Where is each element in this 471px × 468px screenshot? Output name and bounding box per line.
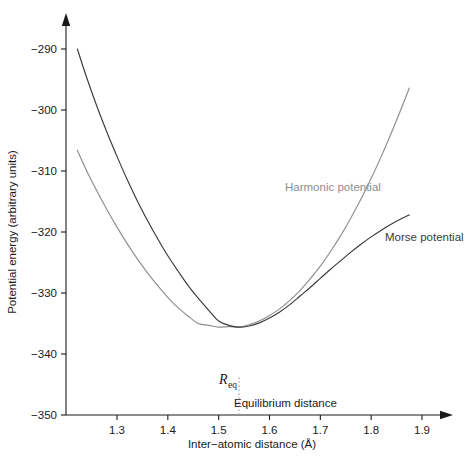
y-tick-label: −320 bbox=[31, 226, 57, 238]
series-label-morse-potential: Morse potential bbox=[385, 231, 464, 243]
potential-energy-chart: 1.31.41.51.61.71.81.9 −290−300−310−320−3… bbox=[0, 0, 471, 468]
series-label-harmonic-potential: Harmonic potential bbox=[285, 181, 381, 193]
x-axis-title: Inter−atomic distance (Å) bbox=[188, 438, 316, 450]
y-tick-label: −290 bbox=[31, 43, 57, 55]
x-tick-label: 1.8 bbox=[363, 424, 379, 436]
y-axis-ticks: −290−300−310−320−330−340−350 bbox=[31, 43, 66, 421]
x-tick-label: 1.5 bbox=[211, 424, 227, 436]
chart-canvas: 1.31.41.51.61.71.81.9 −290−300−310−320−3… bbox=[0, 0, 471, 468]
y-tick-label: −330 bbox=[31, 287, 57, 299]
y-axis-title: Potential energy (arbitrary units) bbox=[6, 150, 18, 314]
y-tick-label: −350 bbox=[31, 409, 57, 421]
x-axis-ticks: 1.31.41.51.61.71.81.9 bbox=[109, 415, 430, 436]
x-tick-label: 1.4 bbox=[160, 424, 177, 436]
y-tick-label: −340 bbox=[31, 348, 57, 360]
r-eq-subscript: eq bbox=[228, 380, 237, 390]
y-axis-arrowhead bbox=[62, 13, 70, 26]
y-tick-label: −310 bbox=[31, 165, 57, 177]
x-axis-arrowhead bbox=[440, 411, 453, 419]
r-eq-main: R bbox=[218, 372, 228, 387]
x-tick-label: 1.3 bbox=[109, 424, 125, 436]
curve-harmonic-potential bbox=[77, 88, 409, 327]
x-tick-label: 1.7 bbox=[312, 424, 328, 436]
x-tick-label: 1.9 bbox=[414, 424, 430, 436]
axes bbox=[62, 13, 453, 419]
y-tick-label: −300 bbox=[31, 104, 57, 116]
equilibrium-distance-caption: Equilibrium distance bbox=[234, 397, 337, 409]
x-tick-label: 1.6 bbox=[262, 424, 278, 436]
equilibrium-r-eq-label: Req bbox=[218, 372, 237, 390]
